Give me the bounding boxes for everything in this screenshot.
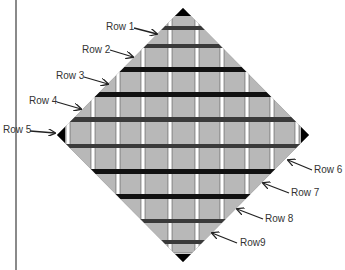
corner-right <box>301 127 309 143</box>
row-label: Row 4 <box>29 95 57 107</box>
arrow-icon <box>263 183 289 193</box>
arrow-icon <box>110 50 133 57</box>
corner-bottom <box>175 254 191 262</box>
row-label: Row9 <box>240 237 266 249</box>
quilt-diamond-svg <box>0 0 345 270</box>
row-label: Row 3 <box>56 70 84 82</box>
arrow-icon <box>237 209 263 219</box>
row-label: Row 6 <box>314 164 342 176</box>
row-label: Row 5 <box>3 124 31 136</box>
corner-left <box>57 127 65 143</box>
arrow-icon <box>134 28 157 34</box>
row-label: Row 8 <box>265 213 293 225</box>
row-label: Row 1 <box>106 21 134 33</box>
arrow-icon <box>212 233 237 243</box>
arrow-icon <box>57 102 81 109</box>
arrow-icon <box>288 160 312 170</box>
row-label: Row 2 <box>82 44 110 56</box>
arrow-icon <box>30 131 55 133</box>
row-label: Row 7 <box>291 187 319 199</box>
arrow-icon <box>84 77 108 84</box>
corner-top <box>175 8 191 16</box>
quilt-body <box>50 0 320 270</box>
quilt-diagram: Row 1Row 2Row 3Row 4Row 5Row 6Row 7Row 8… <box>0 0 345 270</box>
